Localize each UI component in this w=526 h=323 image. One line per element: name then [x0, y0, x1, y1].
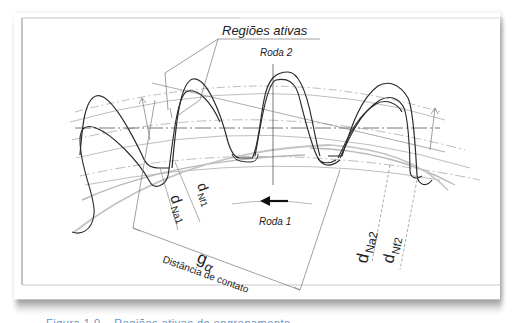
svg-text:Na2: Na2: [362, 230, 380, 255]
wheel-1-label: Roda 1: [259, 216, 291, 227]
svg-text:Na1: Na1: [169, 204, 186, 225]
rotation-arrow-roda-1: [232, 196, 312, 206]
page: Regiões ativas Roda 2 Roda 1 d Na1 d Nf1…: [0, 0, 526, 323]
reference-arcs: [70, 86, 480, 232]
gear-teeth-roda-1: [72, 79, 422, 233]
dimension-arrows: [139, 98, 438, 150]
label-dNa1: d Na1: [165, 192, 193, 226]
figure-caption: Figura 1.0 – Regiões ativas do engrename…: [46, 313, 291, 323]
gear-mesh-diagram: Regiões ativas Roda 2 Roda 1 d Na1 d Nf1…: [0, 0, 526, 323]
label-dNa2: d Na2: [352, 228, 380, 265]
svg-text:Nf2: Nf2: [389, 236, 404, 255]
wheel-2-label: Roda 2: [260, 47, 293, 58]
svg-text:d: d: [167, 192, 186, 206]
svg-text:Nf1: Nf1: [195, 192, 209, 209]
label-dNf1: d Nf1: [192, 181, 217, 209]
callout-title: Regiões ativas: [222, 23, 308, 38]
label-dNf2: d Nf2: [379, 235, 404, 266]
